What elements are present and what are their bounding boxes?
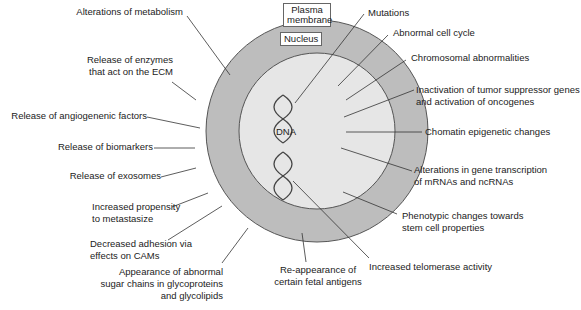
plasma-membrane-label: Plasma membrane — [283, 3, 331, 27]
label-increased-telomerase-activity: Increased telomerase activity — [369, 261, 492, 273]
nucleus — [239, 53, 395, 209]
dna-label: DNA — [276, 126, 296, 138]
label-abnormal-cell-cycle: Abnormal cell cycle — [393, 27, 475, 39]
label-tumor-suppressor-oncogenes: Inactivation of tumor suppressor genes a… — [416, 84, 580, 108]
label-decreased-adhesion: Decreased adhesion via effects on CAMs — [90, 238, 192, 262]
label-increased-propensity-to-metastasize: Increased propensity to metastasize — [92, 201, 180, 225]
label-release-of-biomarkers: Release of biomarkers — [58, 141, 153, 153]
label-alterations-of-metabolism: Alterations of metabolism — [76, 6, 183, 18]
label-gene-transcription-alterations: Alterations in gene transcription of mRN… — [414, 164, 547, 188]
label-mutations: Mutations — [368, 7, 409, 19]
nucleus-label: Nucleus — [280, 32, 322, 46]
label-release-of-angiogenic-factors: Release of angiogenenic factors — [11, 110, 147, 122]
cancer-cell-diagram: Plasma membrane Nucleus DNA Alterations … — [0, 0, 581, 310]
label-chromosomal-abnormalities: Chromosomal abnormalities — [411, 52, 529, 64]
label-release-of-enzymes: Release of enzymes that act on the ECM — [87, 54, 173, 78]
label-stem-cell-phenotype: Phenotypic changes towards stem cell pro… — [402, 210, 523, 234]
label-chromatin-epigenetic-changes: Chomatin epigenetic changes — [425, 126, 550, 138]
label-release-of-exosomes: Release of exosomes — [70, 170, 161, 182]
label-fetal-antigens: Re-appearance of certain fetal antigens — [272, 264, 364, 288]
label-abnormal-sugar-chains: Appearance of abnormal sugar chains in g… — [100, 266, 223, 302]
